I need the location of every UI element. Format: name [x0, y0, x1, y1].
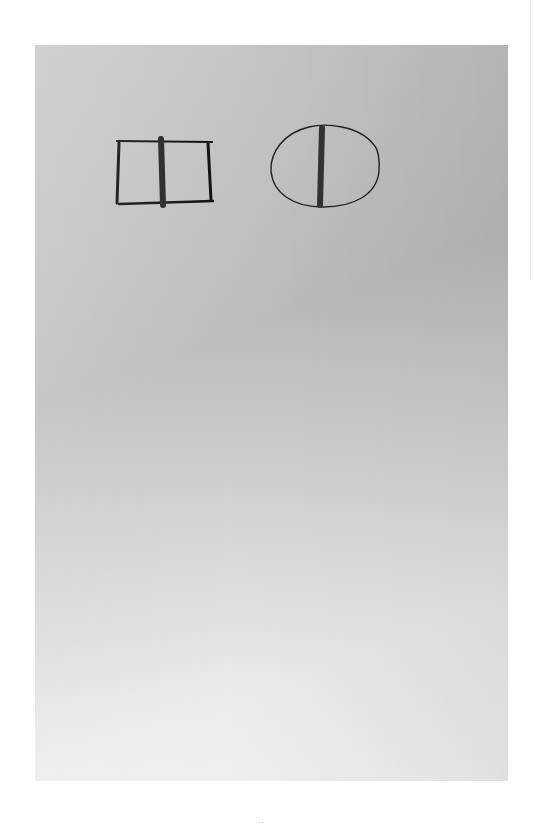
hand-drawn-shapes: [35, 45, 508, 781]
bleed-through-text: [63, 550, 93, 780]
photograph: [35, 45, 508, 781]
ellipse-drawing: [271, 125, 379, 207]
page-edge-line: [530, 0, 531, 280]
rectangle-drawing: [117, 139, 213, 205]
page-number: ··: [258, 818, 264, 828]
